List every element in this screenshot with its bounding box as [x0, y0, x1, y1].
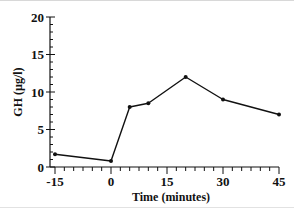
y-tick-labels: 05101520: [31, 10, 45, 175]
x-tick-label: 45: [273, 174, 287, 189]
data-point-marker: [53, 152, 57, 156]
x-axis-title: Time (minutes): [132, 190, 210, 204]
y-tick-label: 5: [38, 122, 45, 137]
y-tick-label: 0: [38, 160, 45, 175]
data-point-marker: [221, 98, 225, 102]
x-tick-label: 15: [161, 174, 175, 189]
data-point-marker: [146, 101, 150, 105]
y-axis-title: GH (µg/l): [11, 67, 25, 116]
y-tick-label: 15: [31, 47, 45, 62]
series-line: [55, 77, 279, 161]
x-tick-label: 0: [108, 174, 115, 189]
line-chart: 05101520 -150153045 GH (µg/l) Time (minu…: [0, 0, 294, 209]
data-point-marker: [184, 75, 188, 79]
chart-frame: 05101520 -150153045 GH (µg/l) Time (minu…: [0, 0, 294, 209]
data-series: [53, 75, 281, 163]
axes: [46, 17, 279, 174]
x-tick-label: -15: [46, 174, 64, 189]
data-point-marker: [109, 159, 113, 163]
y-tick-label: 20: [31, 10, 44, 25]
data-point-marker: [128, 105, 132, 109]
x-tick-labels: -150153045: [46, 174, 286, 189]
x-tick-label: 30: [217, 174, 230, 189]
data-point-marker: [277, 113, 281, 117]
y-tick-label: 10: [31, 85, 44, 100]
